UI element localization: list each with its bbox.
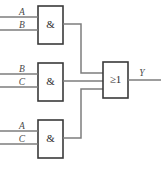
and-gate-2[interactable]: &: [0, 63, 63, 101]
logic-circuit-diagram: & A B & B C & A C: [0, 0, 161, 176]
and-gate-3-symbol: &: [46, 132, 55, 144]
label-and1-input-b: B: [19, 20, 25, 30]
label-and2-input-b: B: [19, 64, 25, 74]
and-gate-1[interactable]: &: [0, 6, 63, 44]
label-and3-input-c: C: [19, 134, 26, 144]
and-gate-1-output-wire: [63, 24, 103, 73]
or-gate-symbol: ≥1: [110, 73, 122, 85]
and-gate-2-symbol: &: [46, 75, 55, 87]
label-and2-input-c: C: [19, 77, 26, 87]
figure-canvas: & A B & B C & A C: [0, 0, 161, 176]
label-output-y: Y: [139, 68, 146, 78]
or-gate[interactable]: ≥1: [103, 62, 128, 98]
label-and3-input-a: A: [18, 121, 25, 131]
and-gate-3-output-wire: [63, 89, 103, 138]
and-gate-3[interactable]: &: [0, 120, 63, 158]
and-gate-1-symbol: &: [46, 18, 55, 30]
label-and1-input-a: A: [18, 7, 25, 17]
